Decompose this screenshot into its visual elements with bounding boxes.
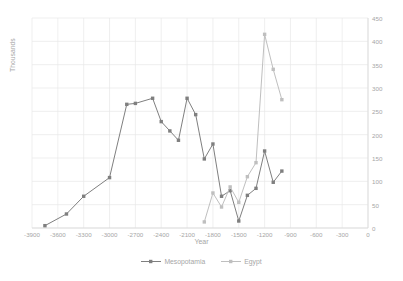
x-tick-label: -600 xyxy=(310,231,322,238)
x-tick-label: -3900 xyxy=(24,231,40,238)
x-tick-label: -300 xyxy=(336,231,348,238)
x-tick-label: -2400 xyxy=(153,231,169,238)
legend-marker-icon xyxy=(141,258,161,265)
chart-container: Thousands Year -3900-3600-3300-3000-2700… xyxy=(0,0,403,281)
legend-label: Mesopotamia xyxy=(164,258,205,265)
chart-legend: MesopotamiaEgypt xyxy=(0,258,403,265)
y-tick-label: 0 xyxy=(372,225,394,232)
x-tick-label: -3000 xyxy=(102,231,118,238)
legend-marker-icon xyxy=(221,258,241,265)
legend-item-egypt[interactable]: Egypt xyxy=(221,258,261,265)
y-tick-label: 450 xyxy=(372,15,394,22)
y-tick-label: 400 xyxy=(372,38,394,45)
x-tick-label: -2100 xyxy=(179,231,195,238)
x-tick-label: -3300 xyxy=(76,231,92,238)
y-tick-label: 350 xyxy=(372,61,394,68)
x-tick-label: -1500 xyxy=(231,231,247,238)
x-tick-label: -2700 xyxy=(127,231,143,238)
x-tick-label: -1800 xyxy=(205,231,221,238)
legend-item-mesopotamia[interactable]: Mesopotamia xyxy=(141,258,205,265)
y-tick-label: 150 xyxy=(372,155,394,162)
y-axis-title: Thousands xyxy=(9,38,16,72)
y-tick-label: 100 xyxy=(372,178,394,185)
y-tick-label: 250 xyxy=(372,108,394,115)
y-tick-label: 200 xyxy=(372,131,394,138)
x-tick-label: 0 xyxy=(366,231,369,238)
y-tick-label: 50 xyxy=(372,201,394,208)
x-axis-title: Year xyxy=(0,238,403,245)
x-tick-label: -900 xyxy=(284,231,296,238)
legend-label: Egypt xyxy=(244,258,261,265)
y-tick-label: 300 xyxy=(372,85,394,92)
x-tick-label: -1200 xyxy=(257,231,273,238)
x-tick-label: -3600 xyxy=(50,231,66,238)
